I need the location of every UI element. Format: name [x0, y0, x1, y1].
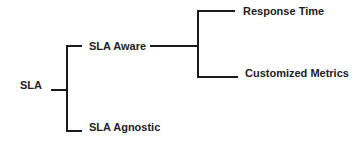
- connector-to-customized-metrics: [197, 76, 238, 78]
- node-sla: SLA: [20, 79, 42, 91]
- connector-root-vertical: [66, 45, 68, 132]
- connector-root-stub: [51, 89, 67, 91]
- sla-tree-diagram: SLA SLA Aware SLA Agnostic Response Time…: [0, 0, 361, 144]
- node-sla-agnostic: SLA Agnostic: [89, 121, 160, 133]
- node-sla-aware: SLA Aware: [89, 40, 146, 52]
- connector-sla-aware-stub: [150, 45, 199, 47]
- node-customized-metrics: Customized Metrics: [245, 67, 349, 79]
- connector-sla-aware-vertical: [197, 10, 199, 78]
- connector-to-sla-aware: [66, 45, 82, 47]
- connector-to-sla-agnostic: [66, 130, 82, 132]
- node-response-time: Response Time: [243, 5, 324, 17]
- connector-to-response-time: [197, 10, 235, 12]
